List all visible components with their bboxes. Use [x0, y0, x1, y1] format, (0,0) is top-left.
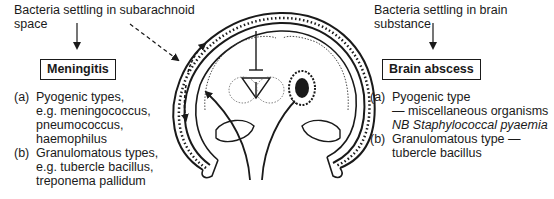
cortex-outline — [205, 36, 348, 110]
dashed-arrow-icon — [130, 24, 178, 60]
skull-outline — [173, 13, 374, 178]
abscess-icon — [289, 71, 315, 105]
brainstem-lines — [206, 92, 298, 180]
brain-diagram — [0, 0, 554, 199]
ventricle — [242, 78, 270, 98]
